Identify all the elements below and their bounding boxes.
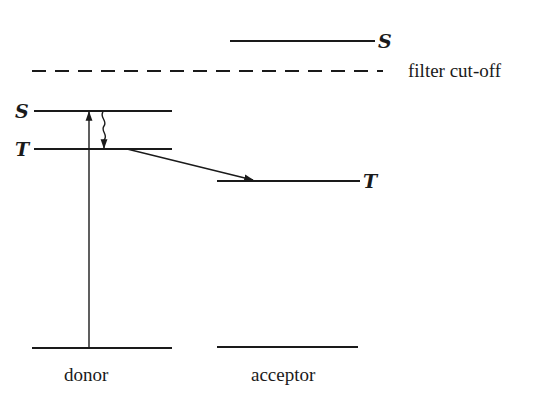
donor-singlet-label: S [15, 100, 29, 122]
acceptor-label: acceptor [251, 364, 316, 385]
energy-level-diagram: S filter cut-off S T T donor acceptor [0, 0, 550, 402]
intersystem-crossing-wavy-arrow [102, 112, 106, 148]
energy-transfer-arrow [127, 149, 253, 180]
acceptor-triplet-label: T [363, 170, 379, 192]
filter-cutoff-label: filter cut-off [408, 60, 502, 81]
acceptor-singlet-label: S [378, 30, 392, 52]
donor-triplet-label: T [15, 138, 31, 160]
donor-label: donor [64, 364, 109, 385]
